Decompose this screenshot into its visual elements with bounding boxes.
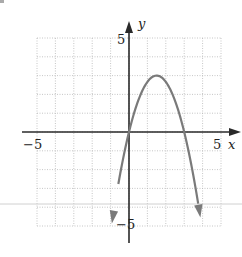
y-tick-label-5: 5	[117, 32, 125, 47]
corner-mark	[0, 0, 4, 3]
parabola-curve	[118, 76, 198, 204]
y-axis-arrow-icon	[125, 21, 133, 33]
x-tick-label-neg5: −5	[23, 137, 42, 152]
x-axis-label: x	[228, 137, 236, 152]
y-axis-label: y	[137, 16, 146, 31]
x-axis-arrow-icon	[229, 128, 241, 136]
parabola-graph: −5 5 x 5 −5 y	[0, 0, 242, 257]
curve-arrow-right-icon	[194, 204, 202, 218]
y-tick-label-neg5: −5	[116, 217, 135, 232]
axes	[22, 21, 241, 243]
x-tick-label-5: 5	[213, 137, 221, 152]
